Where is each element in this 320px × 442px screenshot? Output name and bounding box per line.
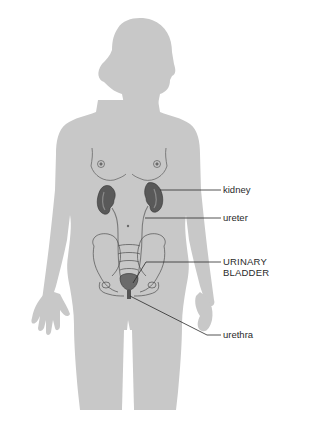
label-ureter: ureter [223, 212, 248, 223]
urethra [127, 290, 131, 299]
label-urethra: urethra [223, 329, 253, 340]
navel [127, 225, 129, 227]
label-bladder-line2: BLADDER [223, 267, 269, 278]
left-hand [31, 290, 70, 335]
head [98, 18, 175, 106]
label-bladder-line1: URINARY [223, 256, 267, 267]
label-kidney: kidney [223, 184, 250, 195]
body-silhouette [31, 18, 214, 410]
